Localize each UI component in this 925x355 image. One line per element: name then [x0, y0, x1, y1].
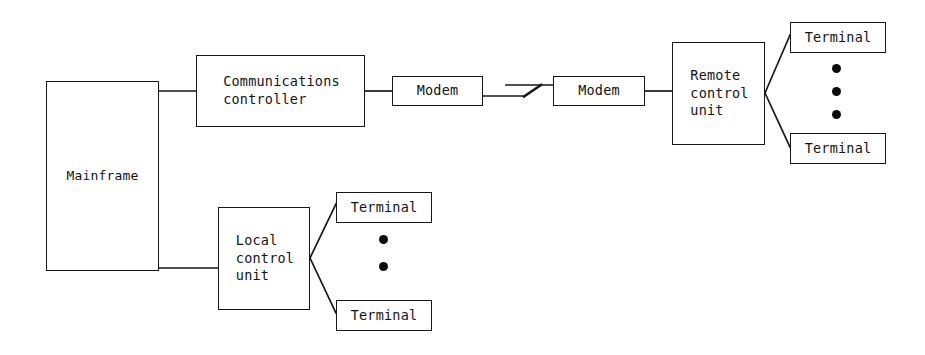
local-terminals-ellipsis-dot	[379, 262, 388, 271]
connector-remote-control-to-terminal-r2	[765, 93, 790, 147]
node-terminal-local-first-label: Terminal	[351, 199, 418, 217]
node-terminal-local-last-label: Terminal	[351, 307, 418, 325]
node-terminal-remote-first[interactable]: Terminal	[790, 22, 886, 53]
node-terminal-remote-last[interactable]: Terminal	[790, 133, 886, 164]
node-communications-controller[interactable]: Communications controller	[196, 55, 365, 127]
connector-break-diagonal	[524, 85, 541, 97]
node-mainframe[interactable]: Mainframe	[46, 81, 159, 271]
node-remote-control-unit[interactable]: Remote control unit	[672, 42, 765, 145]
node-communications-controller-label: Communications controller	[221, 73, 340, 109]
connector-remote-control-to-terminal-r1	[765, 35, 790, 93]
node-terminal-remote-last-label: Terminal	[805, 140, 872, 158]
node-terminal-local-last[interactable]: Terminal	[336, 300, 432, 331]
remote-terminals-ellipsis-dot	[832, 110, 841, 119]
node-local-control-unit[interactable]: Local control unit	[218, 207, 310, 310]
network-diagram-canvas: Mainframe Communications controller Mode…	[0, 0, 925, 355]
node-terminal-remote-first-label: Terminal	[805, 29, 872, 47]
node-local-control-unit-label: Local control unit	[234, 232, 294, 285]
connector-local-control-to-terminal-l2	[310, 258, 336, 313]
connector-local-control-to-terminal-l1	[310, 204, 336, 258]
node-remote-control-unit-label: Remote control unit	[688, 67, 748, 120]
remote-terminals-ellipsis-dot	[832, 87, 841, 96]
node-modem-local[interactable]: Modem	[392, 76, 483, 106]
remote-terminals-ellipsis-dot	[832, 64, 841, 73]
node-mainframe-label: Mainframe	[66, 167, 138, 184]
local-terminals-ellipsis-dot	[379, 235, 388, 244]
node-modem-local-label: Modem	[417, 82, 459, 100]
node-modem-remote[interactable]: Modem	[553, 76, 645, 106]
node-terminal-local-first[interactable]: Terminal	[336, 192, 432, 223]
node-modem-remote-label: Modem	[578, 82, 620, 100]
